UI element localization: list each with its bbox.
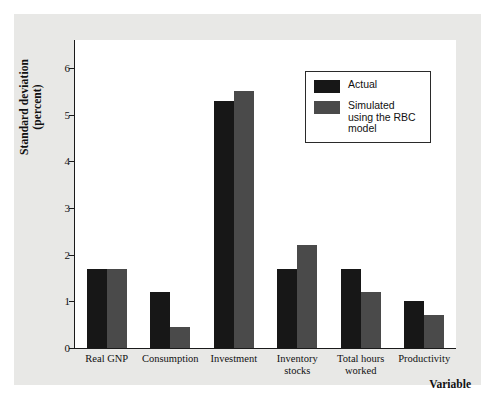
bar-simulated bbox=[170, 327, 190, 348]
legend-label-simulated: Simulated using the RBC model bbox=[348, 100, 422, 135]
bar-simulated bbox=[107, 269, 127, 348]
bar-group bbox=[150, 40, 190, 348]
bar-group bbox=[214, 40, 254, 348]
bar-actual bbox=[404, 301, 424, 348]
y-tick-mark bbox=[69, 208, 74, 209]
bar-actual bbox=[150, 292, 170, 348]
y-tick-label: 4 bbox=[36, 155, 70, 167]
x-tick-label-line: Productivity bbox=[386, 353, 464, 365]
legend-item-simulated: Simulated using the RBC model bbox=[314, 100, 422, 135]
bar-actual bbox=[87, 269, 107, 348]
legend-swatch-simulated bbox=[314, 101, 340, 114]
x-tick-label: Productivity bbox=[386, 353, 464, 365]
y-tick-label: 5 bbox=[36, 109, 70, 121]
bar-simulated bbox=[234, 91, 254, 348]
y-tick-mark bbox=[69, 68, 74, 69]
chart-legend: Actual Simulated using the RBC model bbox=[305, 71, 431, 143]
bar-actual bbox=[214, 101, 234, 348]
y-tick-label: 6 bbox=[36, 62, 70, 74]
bar-simulated bbox=[361, 292, 381, 348]
x-tick-label-line: worked bbox=[322, 365, 400, 377]
bar-actual bbox=[341, 269, 361, 348]
y-tick-label: 3 bbox=[36, 202, 70, 214]
bar-simulated bbox=[424, 315, 444, 348]
y-tick-mark bbox=[69, 348, 74, 349]
y-tick-mark bbox=[69, 301, 74, 302]
bar-group bbox=[87, 40, 127, 348]
y-tick-label: 2 bbox=[36, 249, 70, 261]
legend-label-actual: Actual bbox=[348, 79, 377, 91]
x-axis-line bbox=[74, 348, 456, 349]
y-tick-label: 0 bbox=[36, 342, 70, 354]
y-tick-mark bbox=[69, 115, 74, 116]
chart-page: Standard deviation (percent) 0123456 Rea… bbox=[0, 0, 495, 407]
y-tick-mark bbox=[69, 161, 74, 162]
legend-swatch-actual bbox=[314, 80, 340, 93]
bar-actual bbox=[277, 269, 297, 348]
y-tick-mark bbox=[69, 255, 74, 256]
y-axis-ticks: 0123456 bbox=[30, 0, 70, 407]
x-axis-title: Variable bbox=[429, 378, 471, 390]
bar-simulated bbox=[297, 245, 317, 348]
y-tick-label: 1 bbox=[36, 295, 70, 307]
legend-item-actual: Actual bbox=[314, 79, 422, 93]
